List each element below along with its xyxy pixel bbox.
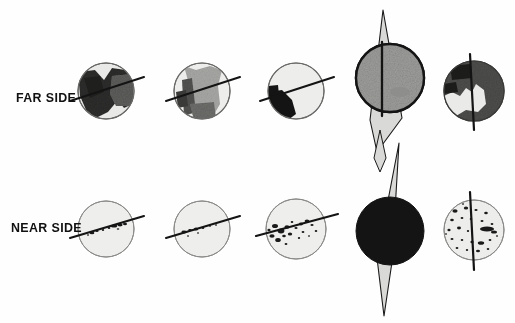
globe-near-3 [266, 199, 326, 259]
globes-canvas [0, 0, 515, 323]
globe-far-3 [268, 63, 324, 120]
globe-near-1 [78, 201, 134, 257]
row-label-far-side: FAR SIDE [16, 90, 76, 105]
row-label-near-side: NEAR SIDE [11, 220, 82, 235]
lunar-hemisphere-figure: FAR SIDE NEAR SIDE [0, 0, 515, 323]
globe-near-2 [174, 201, 230, 257]
globe-far-1 [78, 63, 134, 119]
globe-far-4 [356, 44, 424, 112]
globe-near-4 [356, 197, 424, 265]
globe-far-2 [174, 63, 230, 120]
